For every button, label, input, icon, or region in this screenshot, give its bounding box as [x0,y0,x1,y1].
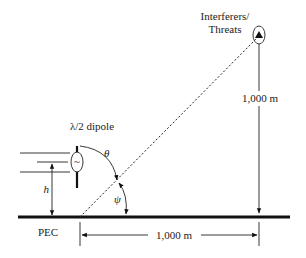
feed-lines [20,153,70,172]
target-label-line2: Threats [209,23,242,35]
theta-arc [80,146,117,180]
dipole-antenna: ~ [71,146,83,188]
dipole-label: λ/2 dipole [70,120,114,132]
pec-label: PEC [38,226,58,238]
horizontal-distance-label: 1,000 m [156,229,193,241]
vertical-distance-label: 1,000 m [242,92,279,104]
target-label-line1: Interferers/ [201,10,251,22]
psi-label: ψ [114,193,121,205]
antenna-geometry-diagram: ~ h λ/2 dipole θ ψ Interferers/ Threats … [0,0,306,258]
source-symbol: ~ [74,155,80,167]
threat-target [253,26,265,44]
height-label: h [44,183,50,195]
theta-label: θ [104,147,110,159]
